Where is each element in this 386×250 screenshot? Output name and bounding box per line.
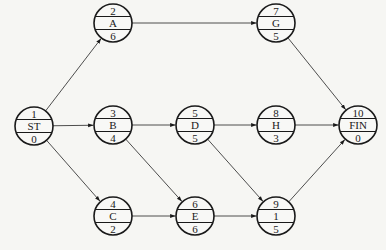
node-duration: 6 [192,223,198,235]
network-diagram: 1ST02A63B44C25D56E67G58H391510FIN0 [0,0,386,250]
edge-i-to-fin [289,139,345,201]
node-id: 2 [110,5,116,17]
node-duration: 5 [273,30,279,42]
node-id: 5 [192,107,198,119]
node-label: H [272,119,280,131]
node-a: 2A6 [94,4,132,42]
node-duration: 0 [355,132,361,144]
node-e: 6E6 [176,197,214,235]
node-label: E [192,210,199,222]
edge-st-to-a [46,38,102,110]
node-id: 8 [273,107,279,119]
nodes-layer: 1ST02A63B44C25D56E67G58H391510FIN0 [15,4,377,235]
edge-st-to-b [53,125,94,126]
node-g: 7G5 [257,4,295,42]
node-duration: 2 [110,223,116,235]
node-duration: 0 [31,133,37,145]
node-label: A [109,17,117,29]
node-duration: 5 [192,132,198,144]
node-label: FIN [349,119,367,131]
node-b: 3B4 [94,106,132,144]
node-i: 915 [257,197,295,235]
node-label: 1 [273,210,279,222]
edge-g-to-fin [288,38,346,110]
node-label: C [109,210,116,222]
node-c: 4C2 [94,197,132,235]
edge-st-to-c [47,140,101,201]
edge-b-to-e [126,139,182,201]
node-label: B [109,119,116,131]
node-label: G [272,17,280,29]
node-duration: 6 [110,30,116,42]
node-id: 10 [353,107,365,119]
node-st: 1ST0 [15,107,53,145]
node-id: 3 [110,107,116,119]
node-h: 8H3 [257,106,295,144]
node-id: 1 [31,108,37,120]
node-duration: 5 [273,223,279,235]
node-id: 4 [110,198,116,210]
node-fin: 10FIN0 [339,106,377,144]
node-label: ST [28,120,41,132]
node-duration: 4 [110,132,116,144]
node-d: 5D5 [176,106,214,144]
node-duration: 3 [273,132,279,144]
node-label: D [191,119,199,131]
node-id: 7 [273,5,279,17]
node-id: 9 [273,198,279,210]
edge-d-to-i [208,139,263,201]
node-id: 6 [192,198,198,210]
